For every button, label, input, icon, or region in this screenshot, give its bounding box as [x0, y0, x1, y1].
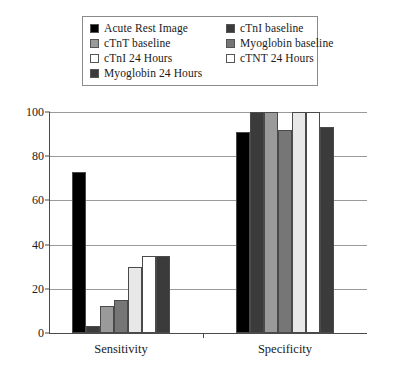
legend-item-myoglobin-baseline: Myoglobin baseline [226, 37, 333, 50]
bar [320, 127, 334, 333]
legend-item-label: Myoglobin baseline [240, 37, 333, 50]
bar [306, 112, 320, 333]
y-tick-mark [45, 333, 50, 334]
bar [264, 112, 278, 333]
bar [72, 172, 86, 333]
bar [278, 130, 292, 333]
y-tick-mark [45, 244, 50, 245]
legend-item-label: cTnT baseline [104, 37, 171, 50]
bar-group: Sensitivity [72, 112, 170, 333]
bar [236, 132, 250, 333]
legend-item-ctni-baseline: cTnI baseline [226, 22, 333, 35]
legend-item-ctnt-baseline: cTnT baseline [90, 37, 220, 50]
y-tick-mark [45, 112, 50, 113]
y-tick-mark [45, 200, 50, 201]
y-axis-tick-label: 100 [26, 106, 44, 118]
legend-item-label: Acute Rest Image [104, 22, 188, 35]
bar [156, 256, 170, 333]
y-axis-tick-label: 0 [38, 327, 44, 339]
legend-swatch-icon [226, 54, 235, 63]
legend-item-label: cTnI 24 Hours [104, 52, 172, 65]
bar [100, 306, 114, 333]
legend-swatch-icon [90, 54, 99, 63]
legend-swatch-icon [90, 24, 99, 33]
bar [250, 112, 264, 333]
legend-item-ctni-24-hours: cTnI 24 Hours [90, 52, 220, 65]
x-axis-group-label: Specificity [258, 342, 312, 357]
y-axis-tick-label: 60 [32, 194, 44, 206]
y-tick-mark [45, 288, 50, 289]
legend-swatch-icon [90, 39, 99, 48]
bar [114, 300, 128, 333]
legend-item-ctnt-24-hours: cTNT 24 Hours [226, 52, 333, 65]
legend-item-acute-rest-image: Acute Rest Image [90, 22, 220, 35]
chart-legend: Acute Rest Image cTnI baseline cTnT base… [82, 16, 318, 86]
bar [142, 256, 156, 333]
legend-item-label: cTnI baseline [240, 22, 304, 35]
x-axis-group-label: Sensitivity [94, 342, 147, 357]
bar [128, 267, 142, 333]
bar-group: Specificity [236, 112, 334, 333]
legend-item-myoglobin-24-hours: Myoglobin 24 Hours [90, 67, 220, 80]
legend-grid: Acute Rest Image cTnI baseline cTnT base… [90, 22, 310, 80]
legend-swatch-icon [226, 39, 235, 48]
y-axis-tick-label: 20 [32, 283, 44, 295]
legend-swatch-icon [226, 24, 235, 33]
legend-item-label: Myoglobin 24 Hours [104, 67, 202, 80]
bar [86, 326, 100, 333]
legend-swatch-icon [90, 69, 99, 78]
x-tick-mark [203, 333, 204, 338]
chart-plot-area: 020406080100SensitivitySpecificity [49, 112, 367, 334]
y-axis-tick-label: 40 [32, 239, 44, 251]
bar [292, 112, 306, 333]
legend-item-label: cTNT 24 Hours [240, 52, 314, 65]
y-tick-mark [45, 156, 50, 157]
y-axis-tick-label: 80 [32, 150, 44, 162]
